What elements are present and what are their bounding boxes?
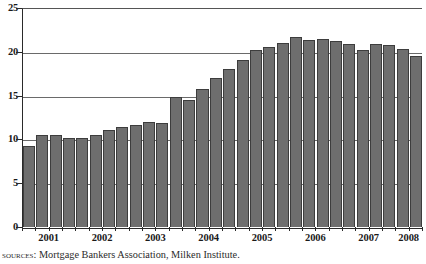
x-axis: 20012002200320042005200620072008 [22,232,422,248]
bar [76,138,88,227]
bar [237,60,249,227]
bar [210,78,222,227]
gridline-0 [23,228,422,229]
plot-area [22,8,422,227]
bar [397,49,409,227]
x-tick-label-2002: 2002 [92,232,113,245]
source-label: Sources [2,249,34,260]
bar [343,44,355,227]
x-tick-mark [422,227,423,231]
bar [103,130,115,227]
x-tick-label-2006: 2006 [305,232,326,245]
chart-figure: 0510152025 20012002200320042005200620072… [0,0,426,264]
y-axis: 0510152025 [0,0,18,264]
bar [196,89,208,227]
x-tick-label-2005: 2005 [252,232,273,245]
bar [263,47,275,227]
bar [383,45,395,227]
bar [357,50,369,227]
bar [330,41,342,227]
bar [410,56,422,227]
bar [143,122,155,227]
bar [370,44,382,227]
bar-series [23,9,422,227]
bar [303,40,315,227]
bar [317,39,329,227]
x-tick-label-2001: 2001 [38,232,59,245]
x-tick-label-2008: 2008 [398,232,419,245]
bar [50,135,62,227]
bar [63,138,75,227]
x-tick-label-2004: 2004 [198,232,219,245]
source-note: Sources: Mortgage Bankers Association, M… [2,249,240,261]
bar [36,135,48,227]
bar [290,37,302,227]
bar [250,50,262,227]
bar [90,135,102,227]
bar [277,43,289,227]
bar [156,123,168,227]
bar [116,127,128,227]
x-tick-label-2007: 2007 [358,232,379,245]
bar [130,125,142,227]
bar [23,146,35,227]
x-tick-label-2003: 2003 [145,232,166,245]
bar [223,69,235,227]
source-text: Mortgage Bankers Association, Milken Ins… [39,249,240,260]
bar [170,97,182,227]
bar [183,100,195,227]
